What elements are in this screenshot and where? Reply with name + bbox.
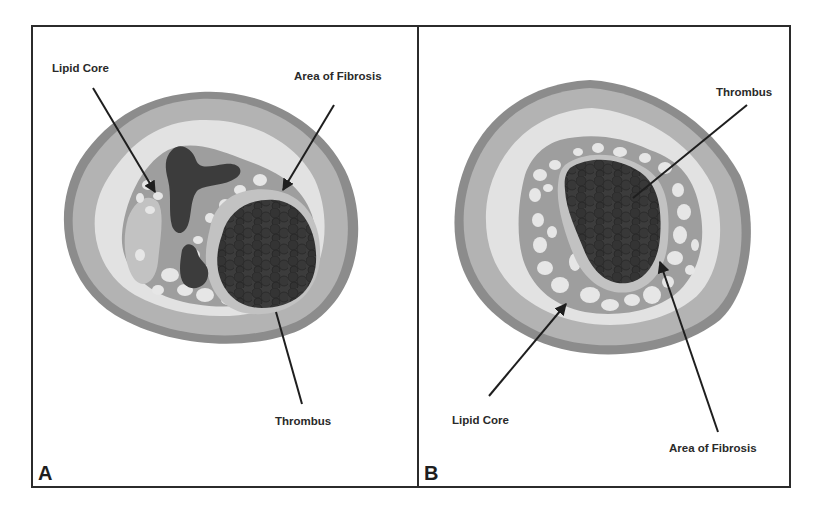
label-thrombus-a: Thrombus [275, 415, 331, 427]
label-thrombus-b: Thrombus [716, 86, 772, 98]
thrombus-a [217, 200, 316, 308]
label-lipid-core-b: Lipid Core [452, 414, 509, 426]
atherosclerotic-plaque-figure: Lipid Core Area of Fibrosis Thrombus A [0, 0, 822, 514]
label-fibrosis-a: Area of Fibrosis [294, 70, 382, 82]
panel-letter-a: A [38, 462, 52, 484]
label-lipid-core-a: Lipid Core [52, 62, 109, 74]
panel-letter-b: B [424, 462, 438, 484]
label-fibrosis-b: Area of Fibrosis [669, 442, 757, 454]
